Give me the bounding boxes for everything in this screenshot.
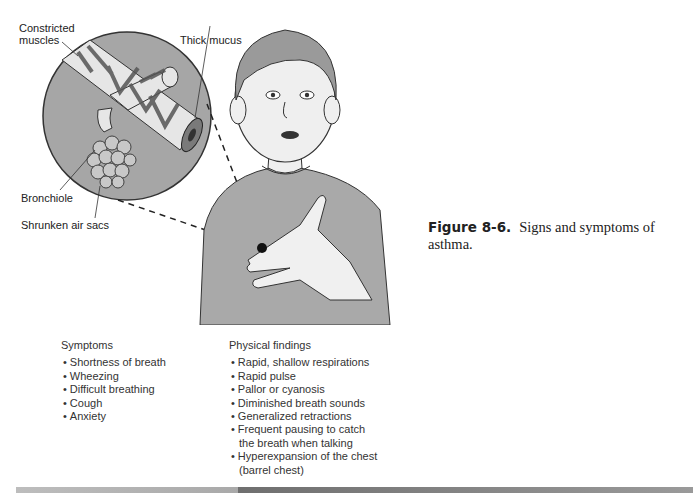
label-constricted-line2: muscles <box>19 34 75 46</box>
physical-findings-heading: Physical findings <box>229 339 379 352</box>
asthma-illustration <box>0 0 420 325</box>
symptom-item: Shortness of breath <box>61 356 211 369</box>
finding-item: Hyperexpansion of the chest (barrel ches… <box>229 450 379 477</box>
finding-item: Diminished breath sounds <box>229 397 379 410</box>
symptom-item: Wheezing <box>61 370 211 383</box>
label-bronchiole: Bronchiole <box>21 192 73 204</box>
figure-caption: Figure 8-6.Signs and symptoms of asthma. <box>428 219 683 253</box>
label-constricted-line1: Constricted <box>19 22 75 34</box>
footer-bar-left <box>16 487 238 493</box>
label-thick-mucus: Thick mucus <box>180 34 242 46</box>
symptom-item: Cough <box>61 397 211 410</box>
label-constricted-muscles: Constricted muscles <box>19 22 75 46</box>
finding-item: Generalized retractions <box>229 410 379 423</box>
finding-item: Pallor or cyanosis <box>229 383 379 396</box>
physical-findings-list: Physical findings Rapid, shallow respira… <box>229 339 379 477</box>
symptom-item: Anxiety <box>61 410 211 423</box>
symptom-item: Difficult breathing <box>61 383 211 396</box>
finding-item: Frequent pausing to catch the breath whe… <box>229 423 379 450</box>
symptoms-heading: Symptoms <box>61 339 211 352</box>
label-shrunken-air-sacs: Shrunken air sacs <box>21 219 109 231</box>
boy-figure <box>200 30 390 325</box>
symptoms-list: Symptoms Shortness of breath Wheezing Di… <box>61 339 211 423</box>
finding-item: Rapid pulse <box>229 370 379 383</box>
bronchiole-magnified-view <box>43 32 211 200</box>
figure-number: Figure 8-6. <box>428 219 511 235</box>
finding-item: Rapid, shallow respirations <box>229 356 379 369</box>
footer-bar-right <box>238 487 693 493</box>
